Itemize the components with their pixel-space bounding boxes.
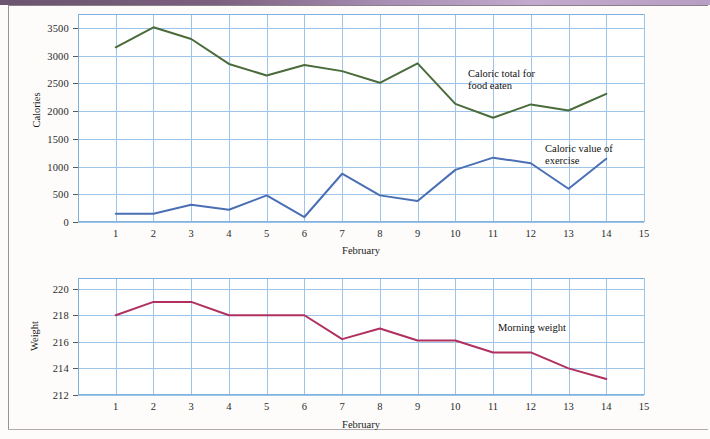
data-series-layer [78, 14, 644, 222]
x-axis-tick-label: 13 [563, 401, 574, 412]
x-axis-tick-label: 6 [302, 401, 307, 412]
gridline-horizontal [78, 222, 644, 223]
gridline-vertical [644, 278, 645, 395]
x-axis-tick-label: 15 [639, 401, 650, 412]
calories-x-axis-title: February [342, 245, 380, 256]
x-axis-tick-label: 10 [450, 401, 461, 412]
y-axis-tick-mark [73, 56, 78, 57]
x-axis-tick-label: 11 [488, 401, 498, 412]
y-axis-tick-label: 218 [0, 310, 69, 321]
x-axis-tick-label: 8 [377, 228, 382, 239]
y-axis-tick-mark [73, 395, 78, 396]
x-axis-tick-label: 12 [526, 228, 537, 239]
calories-plot-area [78, 14, 644, 222]
calories-chart: Calories February Caloric total for food… [0, 0, 710, 262]
y-axis-tick-mark [73, 167, 78, 168]
series-line [116, 302, 607, 379]
x-axis-tick-label: 13 [563, 228, 574, 239]
x-axis-tick-label: 9 [415, 228, 420, 239]
x-axis-tick-label: 3 [189, 228, 194, 239]
x-axis-tick-label: 2 [151, 228, 156, 239]
morning-weight-label: Morning weight [498, 322, 566, 334]
y-axis-tick-mark [73, 342, 78, 343]
x-axis-tick-label: 11 [488, 228, 498, 239]
y-axis-tick-mark [73, 289, 78, 290]
y-axis-tick-label: 0 [0, 217, 69, 228]
x-axis-tick-label: 1 [113, 228, 118, 239]
y-axis-tick-mark [73, 111, 78, 112]
page-root: Calories February Caloric total for food… [0, 0, 710, 439]
weight-plot-area [78, 278, 644, 395]
y-axis-tick-mark [73, 83, 78, 84]
x-axis-tick-label: 12 [526, 401, 537, 412]
y-axis-tick-mark [73, 222, 78, 223]
y-axis-tick-label: 216 [0, 336, 69, 347]
x-axis-tick-label: 7 [340, 228, 345, 239]
y-axis-tick-label: 500 [0, 189, 69, 200]
x-axis-tick-label: 4 [226, 228, 231, 239]
caloric-exercise-label: Caloric value of exercise [545, 143, 613, 166]
x-axis-tick-label: 1 [113, 401, 118, 412]
x-axis-tick-label: 6 [302, 228, 307, 239]
x-axis-tick-label: 10 [450, 228, 461, 239]
x-axis-tick-label: 9 [415, 401, 420, 412]
y-axis-tick-mark [73, 368, 78, 369]
series-line [116, 158, 607, 217]
y-axis-tick-label: 2500 [0, 78, 69, 89]
x-axis-tick-label: 5 [264, 228, 269, 239]
x-axis-tick-label: 2 [151, 401, 156, 412]
weight-x-axis-title: February [342, 419, 380, 430]
y-axis-tick-label: 1500 [0, 133, 69, 144]
x-axis-tick-label: 14 [601, 228, 612, 239]
gridline-vertical [644, 14, 645, 222]
y-axis-tick-label: 3000 [0, 50, 69, 61]
y-axis-tick-label: 212 [0, 390, 69, 401]
y-axis-tick-label: 1000 [0, 161, 69, 172]
y-axis-tick-mark [73, 28, 78, 29]
y-axis-tick-label: 220 [0, 283, 69, 294]
y-axis-tick-mark [73, 194, 78, 195]
x-axis-tick-label: 3 [189, 401, 194, 412]
x-axis-tick-label: 14 [601, 401, 612, 412]
x-axis-tick-label: 5 [264, 401, 269, 412]
y-axis-tick-mark [73, 315, 78, 316]
x-axis-tick-label: 7 [340, 401, 345, 412]
caloric-total-label: Caloric total for food eaten [468, 68, 535, 91]
x-axis-tick-label: 15 [639, 228, 650, 239]
data-series-layer [78, 278, 644, 395]
y-axis-tick-label: 3500 [0, 22, 69, 33]
y-axis-tick-label: 214 [0, 363, 69, 374]
weight-chart: Weight February Morning weight 212214216… [0, 262, 710, 439]
x-axis-tick-label: 4 [226, 401, 231, 412]
gridline-horizontal [78, 395, 644, 396]
x-axis-tick-label: 8 [377, 401, 382, 412]
y-axis-tick-mark [73, 139, 78, 140]
y-axis-tick-label: 2000 [0, 106, 69, 117]
